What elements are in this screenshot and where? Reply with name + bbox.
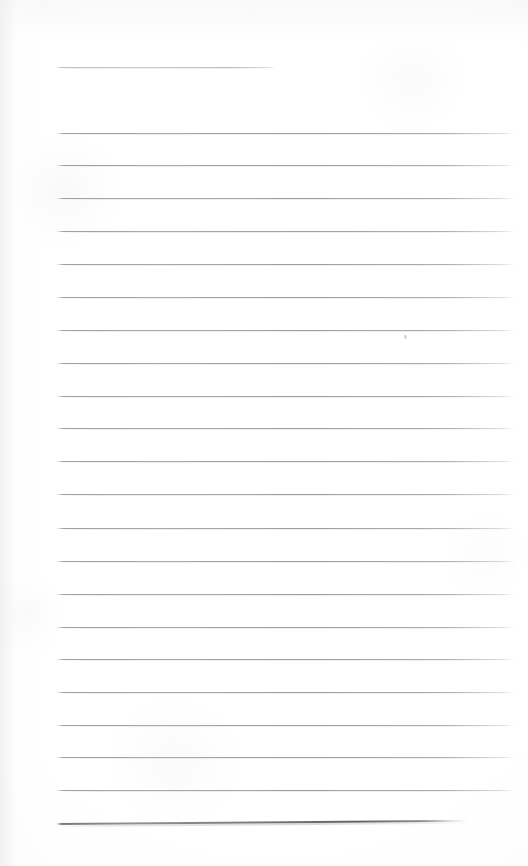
ruled-line [57, 133, 514, 134]
ruled-line [57, 725, 514, 726]
ruled-line-halo [57, 134, 514, 135]
ruled-line-halo [57, 628, 514, 629]
ruled-line-halo [57, 660, 514, 661]
ruled-line-halo [57, 397, 514, 398]
ruled-line [57, 67, 275, 68]
ruled-line-halo [57, 364, 514, 365]
ruled-line [57, 820, 469, 825]
ruled-line-halo [57, 166, 514, 167]
ruled-line [57, 494, 514, 495]
ruled-line-halo [57, 495, 514, 496]
ruled-line-halo [57, 758, 514, 759]
ruled-line [57, 692, 514, 693]
ruled-line [57, 659, 514, 660]
ruled-line [57, 757, 514, 758]
ruled-line-halo [57, 595, 514, 596]
ruled-line [57, 528, 514, 529]
ruled-line-halo [57, 429, 514, 430]
ruled-line [57, 561, 514, 562]
ruled-line [57, 790, 514, 791]
ruled-lines-layer [0, 0, 528, 866]
ruled-line [57, 396, 514, 397]
ruled-line [57, 428, 514, 429]
ruled-line-halo [57, 298, 514, 299]
ruled-line [57, 198, 514, 199]
ruled-line-halo [57, 529, 514, 530]
ruled-line [57, 594, 514, 595]
ruled-line-halo [57, 726, 514, 727]
ruled-line-halo [57, 462, 514, 463]
ruled-line-halo [57, 693, 514, 694]
ruled-line-halo [57, 265, 514, 266]
ruled-line [57, 297, 514, 298]
ruled-line-halo [57, 331, 514, 332]
ruled-line-halo [57, 199, 514, 200]
ruled-line [57, 461, 514, 462]
ruled-line-halo [57, 562, 514, 563]
scanned-page [0, 0, 528, 866]
ruled-line [57, 264, 514, 265]
ruled-line [57, 231, 514, 232]
ruled-line [57, 627, 514, 628]
ruled-line [57, 330, 514, 331]
ruled-line-halo [57, 232, 514, 233]
ruled-line-halo [57, 68, 275, 69]
ruled-line [57, 363, 514, 364]
ruled-line-halo [57, 791, 514, 792]
ruled-line [57, 165, 514, 166]
